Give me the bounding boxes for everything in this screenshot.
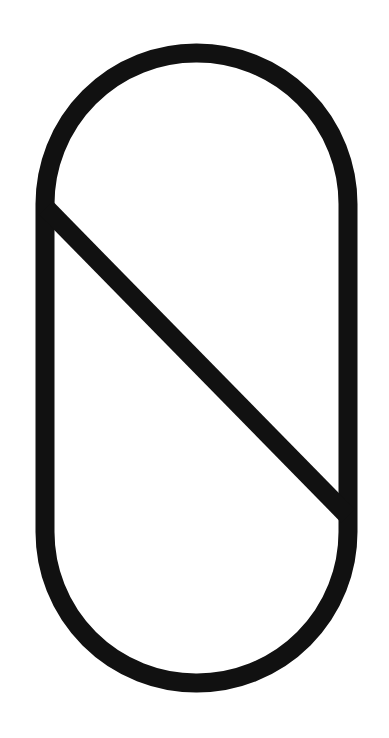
- geometric-figure-svg: [0, 0, 389, 738]
- figure-canvas: Stadium outline with diagonal chord A ta…: [0, 0, 389, 738]
